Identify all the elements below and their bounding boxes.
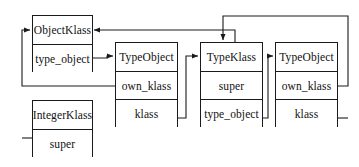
node-type-klass[interactable]: TypeKlass super type_object	[200, 42, 263, 127]
node-type-object-right-header: TypeObject	[276, 43, 337, 71]
node-object-klass-field-type-object: type_object	[33, 44, 92, 72]
node-type-object-left[interactable]: TypeObject own_klass klass	[115, 42, 178, 127]
node-type-object-left-field-klass: klass	[116, 99, 177, 127]
edge-typeobject-klass-to-typeklass	[178, 56, 198, 118]
node-object-klass[interactable]: ObjectKlass type_object	[32, 15, 93, 72]
node-type-klass-field-super: super	[201, 71, 262, 99]
node-type-object-left-field-own-klass: own_klass	[116, 71, 177, 99]
edge-objectklass-typeobject-to-typeobject-left	[93, 56, 113, 58]
node-type-klass-field-type-object: type_object	[201, 99, 262, 127]
node-type-object-left-header: TypeObject	[116, 43, 177, 71]
edge-typeklass-typeobject-to-typeobject-right	[263, 56, 273, 118]
node-integer-klass[interactable]: IntegerKlass super	[32, 100, 93, 157]
node-type-object-right[interactable]: TypeObject own_klass klass	[275, 42, 338, 127]
node-type-object-right-field-klass: klass	[276, 99, 337, 127]
diagram-canvas: ObjectKlass type_object IntegerKlass sup…	[0, 0, 359, 167]
node-type-klass-header: TypeKlass	[201, 43, 262, 71]
node-integer-klass-header: IntegerKlass	[33, 101, 92, 129]
node-integer-klass-field-super: super	[33, 129, 92, 157]
node-type-object-right-field-own-klass: own_klass	[276, 71, 337, 99]
node-object-klass-header: ObjectKlass	[33, 16, 92, 44]
